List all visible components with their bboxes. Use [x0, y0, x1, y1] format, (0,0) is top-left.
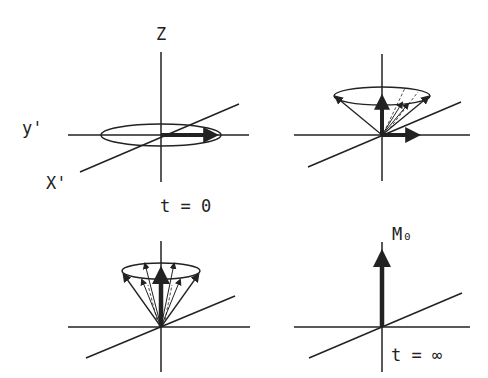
- spin-vector: [145, 264, 161, 327]
- panel-tinf: [294, 242, 470, 372]
- time-label-tinf: t = ∞: [391, 345, 442, 365]
- time-label-t0: t = 0: [160, 196, 211, 216]
- cone-edge-left: [124, 275, 161, 327]
- spin-vector: [382, 103, 402, 135]
- y-axis-label: y': [22, 118, 42, 138]
- cone-edge-left: [336, 97, 382, 135]
- z-axis-label: Z: [156, 24, 166, 44]
- panel-precession-2: [68, 241, 250, 372]
- panel-precession-1: [294, 54, 470, 181]
- panel-t0: [68, 52, 249, 182]
- cone-edge-right: [382, 97, 428, 135]
- m0-label: M₀: [392, 224, 412, 244]
- x-axis-label: X': [46, 173, 66, 193]
- magnetization-diagram: Z y' X' t = 0 M₀: [0, 0, 488, 378]
- spin-vector-dashed: [386, 88, 405, 128]
